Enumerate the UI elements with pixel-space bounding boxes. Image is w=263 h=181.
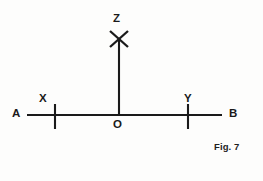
point-label-o: O	[113, 119, 122, 131]
point-label-b: B	[229, 108, 238, 120]
point-label-z: Z	[113, 13, 120, 25]
point-label-a: A	[12, 108, 21, 120]
figure-caption: Fig. 7	[214, 142, 239, 152]
point-label-y: Y	[184, 93, 192, 105]
figure-diagram: A B X Y Z O Fig. 7	[0, 0, 263, 181]
point-label-x: X	[39, 93, 47, 105]
diagram-canvas	[0, 0, 263, 181]
